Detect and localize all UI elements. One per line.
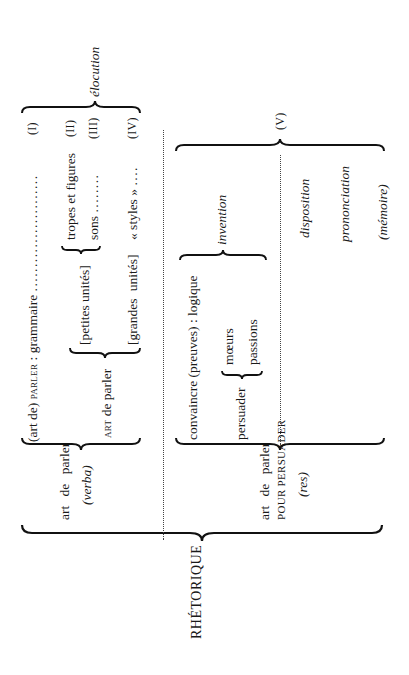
invention-label: invention xyxy=(215,195,229,245)
res-separator-dotted-line xyxy=(280,155,281,445)
disposition-label: disposition xyxy=(298,179,312,238)
art-smallcaps: art xyxy=(99,420,114,438)
passions-label: passions xyxy=(246,319,260,365)
numeral-v-brace xyxy=(174,137,386,153)
separator-dotted-line xyxy=(163,130,164,540)
numeral-iv: (IV) xyxy=(126,117,138,139)
verba-label-line2: (verba) xyxy=(80,465,94,505)
elocution-label: élocution xyxy=(88,47,102,97)
art-de-parler-text: de parler xyxy=(99,369,114,420)
res-label-line3: (res) xyxy=(296,472,310,497)
parler-prefix: (art de) xyxy=(25,399,40,442)
invention-brace xyxy=(178,248,268,262)
elocution-brace xyxy=(20,99,142,115)
convaincre-label: convaincre (preuves) : logique xyxy=(186,275,200,440)
sons-text: sons xyxy=(86,216,101,240)
unites-brace xyxy=(68,346,142,360)
persuader-brace xyxy=(220,369,264,381)
parler-smallcaps: parler xyxy=(25,364,40,399)
grandes-unites-label: [grandes unités] xyxy=(126,254,140,345)
numeral-ii: (II) xyxy=(64,120,76,137)
styles-text: « styles » xyxy=(125,189,140,240)
parler-grammaire-row: (art de) parler : grammaire ............… xyxy=(26,174,40,442)
petites-unites-brace xyxy=(60,244,102,256)
moeurs-label: mœurs xyxy=(222,328,236,365)
rhetorique-diagram: RHÉTORIQUE art de parler (verba) (art de… xyxy=(0,0,409,675)
verba-label-line1: art de parler xyxy=(58,443,72,520)
tropes-figures-label: tropes et figures xyxy=(64,153,78,240)
prononciation-label: prononciation xyxy=(338,166,352,242)
parler-suffix: : grammaire xyxy=(25,295,40,364)
res-label-line2: POUR PERSUADER xyxy=(276,420,287,520)
petites-unites-label: [petites unités] xyxy=(78,265,92,345)
art-de-parler-label: art de parler xyxy=(100,369,114,438)
styles-leader: .... xyxy=(125,166,140,186)
numeral-v: (V) xyxy=(274,112,286,130)
leader-dots: ........................ xyxy=(25,174,40,291)
res-label-line1: art de parler xyxy=(258,443,272,520)
sons-label: sons ........ xyxy=(87,174,101,240)
sons-leader: ........ xyxy=(86,174,101,213)
root-brace xyxy=(20,523,384,543)
styles-label: « styles » .... xyxy=(126,166,140,240)
root-label: RHÉTORIQUE xyxy=(190,545,204,639)
numeral-i: (I) xyxy=(26,122,38,135)
memoire-label: (mémoire) xyxy=(376,184,390,240)
persuader-label: persuader xyxy=(234,388,248,440)
numeral-iii: (III) xyxy=(87,118,99,139)
